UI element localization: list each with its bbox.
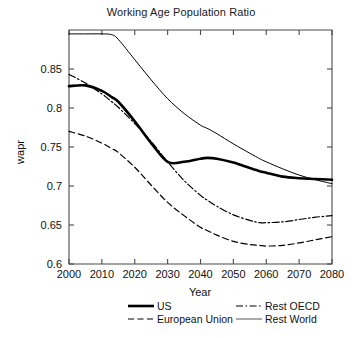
y-axis-title: wapr (14, 140, 26, 165)
y-tick-label: 0.6 (47, 258, 62, 270)
x-tick-label: 2020 (123, 268, 147, 280)
series-line (69, 74, 332, 222)
x-tick-label: 2050 (221, 268, 245, 280)
chart-legend: USRest OECDEuropean UnionRest World (128, 300, 320, 325)
legend-label: Rest OECD (265, 300, 320, 312)
series-line (69, 131, 332, 246)
chart-figure: Working Age Population Ratio 20002010202… (0, 0, 362, 338)
x-tick-label: 2010 (90, 268, 114, 280)
x-axis-title: Year (189, 286, 212, 298)
legend-label: Rest World (265, 313, 317, 325)
data-series-group (69, 34, 332, 246)
x-tick-label: 2080 (320, 268, 344, 280)
y-axis-tick-labels: 0.60.650.70.750.80.85 (41, 63, 62, 270)
x-tick-label: 2060 (254, 268, 278, 280)
y-tick-label: 0.85 (41, 63, 62, 75)
legend-label: European Union (157, 313, 233, 325)
x-tick-label: 2070 (287, 268, 311, 280)
series-line (69, 34, 332, 184)
y-tick-label: 0.65 (41, 219, 62, 231)
legend-label: US (157, 300, 172, 312)
plot-canvas: 200020102020203020402050206020702080 0.6… (0, 0, 362, 338)
y-tick-label: 0.8 (47, 102, 62, 114)
y-tick-label: 0.7 (47, 180, 62, 192)
x-tick-label: 2040 (188, 268, 212, 280)
x-tick-label: 2030 (155, 268, 179, 280)
y-tick-label: 0.75 (41, 141, 62, 153)
x-axis-tick-labels: 200020102020203020402050206020702080 (57, 268, 344, 280)
